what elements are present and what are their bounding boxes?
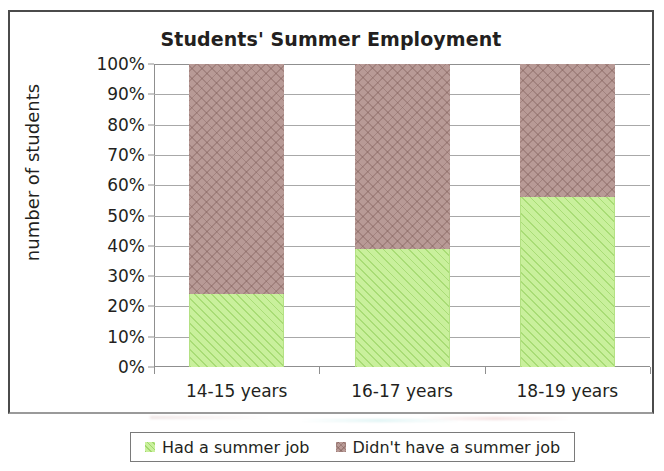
scan-artifact: [420, 417, 570, 420]
bar-group: [355, 64, 450, 367]
y-axis-tick-label: 50%: [107, 206, 145, 226]
chart-legend: Had a summer jobDidn't have a summer job: [130, 432, 575, 462]
y-axis-title: number of students: [22, 63, 43, 283]
bar-segment[interactable]: [355, 249, 450, 367]
x-axis-tick-label: 16-17 years: [312, 381, 492, 401]
bar-segment[interactable]: [520, 197, 615, 367]
chart-title: Students' Summer Employment: [10, 28, 652, 50]
y-axis-tick-label: 0%: [118, 357, 145, 377]
legend-label: Had a summer job: [162, 438, 310, 457]
plot-area: 100%90%80%70%60%50%40%30%20%10%0% 14-15 …: [154, 64, 650, 367]
y-axis-tick-label: 30%: [107, 266, 145, 286]
legend-swatch-mauve-icon: [336, 442, 346, 452]
y-axis-tick-label: 70%: [107, 145, 145, 165]
y-axis-tick-label: 60%: [107, 175, 145, 195]
y-axis-tick-mark: [148, 276, 154, 277]
y-axis-tick-mark: [148, 185, 154, 186]
y-axis-tick-mark: [148, 94, 154, 95]
y-axis-tick-mark: [148, 154, 154, 155]
bar-segment[interactable]: [189, 294, 284, 367]
x-axis-tick-mark: [485, 367, 486, 374]
y-axis-tick-label: 20%: [107, 296, 145, 316]
y-axis-tick-mark: [148, 336, 154, 337]
bar-group: [189, 64, 284, 367]
y-axis-tick-mark: [148, 64, 154, 65]
scan-artifact: [150, 416, 270, 419]
y-axis-tick-label: 90%: [107, 84, 145, 104]
y-axis-tick-label: 100%: [96, 54, 145, 74]
x-axis-tick-mark: [319, 367, 320, 374]
chart-frame: Students' Summer Employment number of st…: [8, 10, 654, 414]
x-axis-tick-label: 18-19 years: [477, 381, 657, 401]
bar-segment[interactable]: [520, 64, 615, 197]
y-axis-tick-mark: [148, 245, 154, 246]
y-axis-tick-mark: [148, 215, 154, 216]
bar-group: [520, 64, 615, 367]
bar-segment[interactable]: [355, 64, 450, 249]
x-axis-tick-label: 14-15 years: [147, 381, 327, 401]
legend-swatch-green-icon: [145, 442, 155, 452]
bar-segment[interactable]: [189, 64, 284, 294]
x-axis-tick-mark: [154, 367, 155, 374]
y-axis-tick-mark: [148, 124, 154, 125]
y-axis-tick-label: 40%: [107, 236, 145, 256]
legend-entry[interactable]: Had a summer job: [145, 438, 310, 457]
legend-entry[interactable]: Didn't have a summer job: [336, 438, 561, 457]
y-axis-tick-label: 10%: [107, 327, 145, 347]
x-axis-tick-mark: [650, 367, 651, 374]
legend-label: Didn't have a summer job: [353, 438, 561, 457]
y-axis-tick-mark: [148, 306, 154, 307]
y-axis-tick-label: 80%: [107, 115, 145, 135]
